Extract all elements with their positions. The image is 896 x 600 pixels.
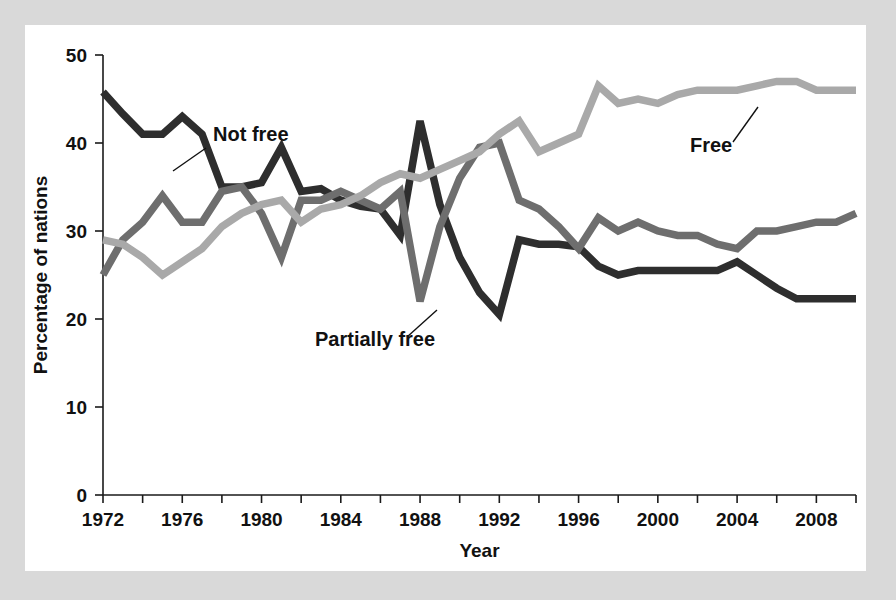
x-tick-label: 2004	[716, 509, 759, 530]
figure-card: 01020304050 1972197619801984198819921996…	[25, 25, 866, 571]
y-tick-label: 10	[66, 397, 87, 418]
series-label-not-free: Not free	[213, 123, 289, 145]
y-tick-label: 0	[76, 485, 87, 506]
x-tick-label: 1996	[557, 509, 599, 530]
x-tick-label: 1992	[478, 509, 520, 530]
line-chart: 01020304050 1972197619801984198819921996…	[25, 25, 866, 571]
y-tick-label: 30	[66, 221, 87, 242]
series-label-partially-free: Partially free	[315, 328, 435, 350]
x-tick-label: 1972	[82, 509, 124, 530]
y-axis-title: Percentage of nations	[30, 176, 51, 375]
x-tick-label: 1988	[399, 509, 441, 530]
x-axis-title: Year	[459, 540, 500, 561]
x-tick-label: 1976	[161, 509, 203, 530]
y-tick-label: 50	[66, 45, 87, 66]
x-tick-label: 1984	[320, 509, 363, 530]
y-tick-label: 20	[66, 309, 87, 330]
x-tick-label: 2008	[795, 509, 837, 530]
y-tick-label: 40	[66, 133, 87, 154]
plot-background	[25, 25, 866, 571]
x-tick-label: 1980	[240, 509, 282, 530]
series-label-free: Free	[690, 134, 732, 156]
x-tick-label: 2000	[637, 509, 679, 530]
